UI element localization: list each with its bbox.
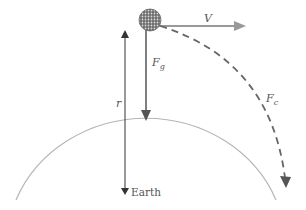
- orbit-diagram: V Fg r Fc Earth: [0, 0, 306, 210]
- velocity-arrow: [158, 21, 246, 31]
- centripetal-force-path: [160, 26, 291, 188]
- earth-label: Earth: [131, 186, 161, 198]
- gravity-force-arrow: [141, 30, 151, 121]
- radius-arrow: [121, 30, 129, 195]
- radius-arrowhead-top: [121, 30, 129, 38]
- gravity-force-label: Fg: [151, 56, 165, 71]
- centripetal-force-label: Fc: [265, 92, 279, 107]
- velocity-label: V: [204, 12, 213, 25]
- radius-arrowhead-bottom: [121, 188, 129, 195]
- satellite-icon: [139, 9, 161, 31]
- radius-label: r: [116, 97, 122, 110]
